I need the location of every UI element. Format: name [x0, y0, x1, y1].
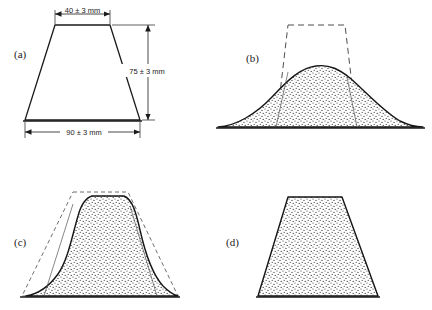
dimension-top-width-label: 40 ± 3 mm — [65, 6, 100, 15]
panel-c: (c) — [14, 192, 180, 297]
panel-d-intact-specimen — [258, 197, 378, 296]
panel-c-label: (c) — [14, 236, 27, 249]
figure-canvas: (a) 40 ± 3 mm 75 ± 3 mm 90 ± 3 mm — [0, 0, 432, 310]
panel-d: (d) — [226, 197, 380, 297]
panel-a: (a) 40 ± 3 mm 75 ± 3 mm 90 ± 3 mm — [14, 6, 174, 139]
panel-d-label: (d) — [226, 236, 239, 249]
dimension-bottom-width-label: 90 ± 3 mm — [66, 128, 101, 137]
dimension-height-label: 75 ± 3 mm — [129, 67, 164, 76]
slump-test-figure: (a) 40 ± 3 mm 75 ± 3 mm 90 ± 3 mm — [0, 0, 432, 310]
panel-a-label: (a) — [14, 48, 27, 61]
panel-b-slumped-specimen — [218, 66, 423, 127]
panel-b-label: (b) — [246, 52, 259, 65]
panel-b: (b) — [216, 25, 425, 128]
